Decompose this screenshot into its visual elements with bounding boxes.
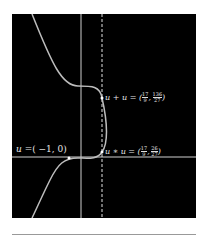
label-text: u =: [16, 144, 32, 154]
label-value: ( −1, 0): [32, 144, 67, 154]
fraction-x: 179: [142, 92, 148, 103]
label-text: u + u = (: [105, 93, 142, 102]
label-text: u ∗ u = (: [105, 147, 141, 156]
denominator: 9: [142, 98, 148, 103]
elliptic-curve-plot: u + u = (179, 13627) u ∗ u = (179, 2627)…: [12, 14, 196, 218]
cubic-curve: [32, 14, 107, 218]
fraction-y: 13627: [153, 92, 163, 103]
fraction-x: 179: [141, 146, 147, 157]
denominator: 27: [153, 98, 163, 103]
label-u-plus-u: u + u = (179, 13627): [105, 92, 165, 103]
label-u-star-u: u ∗ u = (179, 2627): [105, 146, 161, 157]
curve-graphic: [12, 14, 196, 218]
label-suffix: ): [162, 93, 165, 102]
point-u: [68, 157, 71, 160]
point-u-plus-u: [101, 97, 104, 100]
label-suffix: ): [158, 147, 161, 156]
denominator: 9: [141, 152, 147, 157]
bottom-rule: [12, 234, 196, 235]
label-u: u =( −1, 0): [16, 144, 67, 154]
point-u-star-u: [101, 151, 104, 154]
